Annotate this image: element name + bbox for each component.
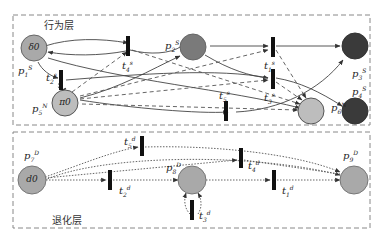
diagram-canvas <box>0 0 383 237</box>
label-p5: p5N <box>32 103 47 116</box>
transition-t3d <box>190 200 194 220</box>
transition-t5d <box>140 136 144 156</box>
label-t5d: t5d <box>124 136 136 149</box>
label-t4s: t4s <box>122 60 133 73</box>
label-t1s: t1s <box>264 60 275 73</box>
label-p3: p3S <box>352 68 366 81</box>
label-t1d: t1d <box>282 185 294 198</box>
place-p6 <box>298 98 324 124</box>
delta0-text: δ0 <box>19 43 49 52</box>
place-p8 <box>178 166 206 194</box>
label-t3d: t3d <box>199 210 211 223</box>
pi0-text: π0 <box>50 98 80 107</box>
label-p8: p8D <box>166 162 181 175</box>
transition-t4s <box>126 36 130 56</box>
label-p9: p9D <box>343 150 358 163</box>
label-p6: p6N <box>331 102 346 115</box>
label-t5s: t5s <box>219 90 230 103</box>
transition-t4d <box>239 148 243 168</box>
petri-net-diagram: 行为层 退化层 δ0 π0 d0 p1S p5N p2S p6N p3S p4S… <box>0 0 383 237</box>
label-p7: p7D <box>24 150 39 163</box>
label-t2s: t2s <box>46 72 57 85</box>
label-p4: p4S <box>352 86 366 99</box>
transition-t2s <box>59 70 63 90</box>
transition-t5s <box>224 101 228 121</box>
label-p1: p1S <box>18 65 32 78</box>
label-t3s: t3s <box>264 92 275 105</box>
place-p3 <box>342 33 368 59</box>
label-t2d: t2d <box>119 185 131 198</box>
place-p9 <box>340 166 368 194</box>
label-p2: p2S <box>165 40 179 53</box>
label-t4d: t4d <box>248 160 260 173</box>
transition-t1d <box>272 170 276 190</box>
d0-text: d0 <box>17 175 47 184</box>
transition-t1s <box>271 37 275 57</box>
transition-t2d <box>108 170 112 190</box>
place-p2 <box>180 34 206 60</box>
degradation-layer-title: 退化层 <box>52 212 82 227</box>
behavior-layer-title: 行为层 <box>44 17 74 32</box>
